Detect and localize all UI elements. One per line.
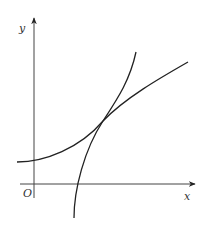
x-axis-label: x [184, 190, 191, 203]
exponential-curve [17, 62, 188, 162]
logarithmic-curve [74, 52, 136, 218]
origin-label: O [23, 187, 32, 200]
function-graph: y x O [0, 0, 206, 229]
y-axis-label: y [18, 22, 26, 35]
